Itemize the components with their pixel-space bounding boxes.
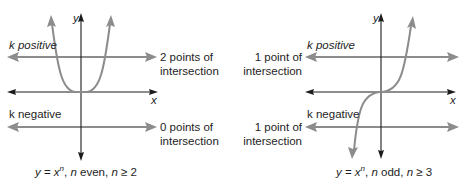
k-negative-line bbox=[7, 122, 157, 132]
k-positive-line bbox=[7, 52, 157, 62]
k-positive-label: k positive bbox=[307, 39, 355, 51]
caption-odd: y = xn, n odd, n ≥ 3 bbox=[335, 164, 432, 178]
intersection-count-lower: 0 points of bbox=[160, 121, 214, 133]
arrow-down-icon bbox=[378, 150, 384, 159]
arrow-down-icon bbox=[348, 147, 358, 159]
odd-power-curve bbox=[348, 16, 416, 159]
arrow-left-icon bbox=[305, 89, 314, 95]
arrow-down-icon bbox=[78, 152, 84, 161]
k-positive-label: k positive bbox=[9, 39, 57, 51]
caption-even: y = xn, n even, n ≥ 2 bbox=[34, 164, 137, 178]
arrow-up-icon bbox=[78, 13, 84, 22]
intersection-count-lower-line2: intersection bbox=[243, 135, 302, 147]
y-axis bbox=[378, 13, 384, 159]
k-negative-line bbox=[305, 122, 459, 132]
odd-power-diagram: y x k positive 1 point of intersection k… bbox=[243, 12, 459, 178]
y-axis-label: y bbox=[372, 12, 380, 24]
y-axis bbox=[78, 13, 84, 161]
intersection-count-upper-line2: intersection bbox=[160, 65, 219, 77]
arrow-left-icon bbox=[7, 89, 16, 95]
y-axis-label: y bbox=[72, 12, 80, 24]
arrow-up-icon bbox=[378, 13, 384, 22]
k-positive-line bbox=[305, 52, 459, 62]
power-function-horizontal-line-diagram: y x k positive 2 points of intersection … bbox=[0, 0, 468, 185]
x-axis-label: x bbox=[150, 94, 158, 106]
intersection-count-lower-line2: intersection bbox=[160, 135, 219, 147]
even-power-diagram: y x k positive 2 points of intersection … bbox=[7, 12, 219, 178]
intersection-count-upper: 1 point of bbox=[255, 51, 303, 63]
x-axis-label: x bbox=[449, 94, 457, 106]
k-negative-label: k negative bbox=[9, 108, 61, 120]
k-negative-label: k negative bbox=[307, 108, 359, 120]
intersection-count-upper: 2 points of bbox=[160, 51, 214, 63]
intersection-count-upper-line2: intersection bbox=[243, 65, 302, 77]
intersection-count-lower: 1 point of bbox=[255, 121, 303, 133]
